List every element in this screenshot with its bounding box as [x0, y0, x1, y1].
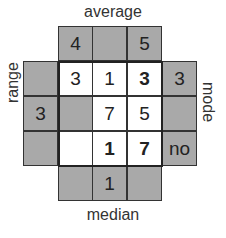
grid-cell[interactable]: 3 [58, 61, 93, 96]
label-range: range [4, 62, 22, 103]
grid-cell-given: 1 [92, 131, 127, 166]
average-clue-cell [92, 26, 127, 61]
grid-cell[interactable]: 7 [92, 96, 127, 131]
grid-cell[interactable]: 5 [127, 96, 162, 131]
mode-clue-cell [162, 96, 197, 131]
grid-cell-given: 7 [127, 131, 162, 166]
grid-cell-given: 3 [127, 61, 162, 96]
mode-clue-cell: 3 [162, 61, 197, 96]
mode-clue-cell: no [162, 131, 197, 166]
median-clue-cell [127, 166, 162, 201]
average-clue-cell: 4 [58, 26, 93, 61]
grid-cell[interactable] [58, 131, 93, 166]
range-clue-cell [23, 131, 58, 166]
range-clue-cell: 3 [23, 96, 58, 131]
median-clue-cell: 1 [92, 166, 127, 201]
label-average: average [0, 3, 226, 21]
average-clue-cell: 5 [127, 26, 162, 61]
grid-cell-shaded [58, 96, 93, 131]
label-mode: mode [199, 82, 217, 122]
label-median: median [0, 206, 226, 224]
median-clue-cell [58, 166, 93, 201]
grid-cell[interactable]: 1 [92, 61, 127, 96]
range-clue-cell [23, 61, 58, 96]
